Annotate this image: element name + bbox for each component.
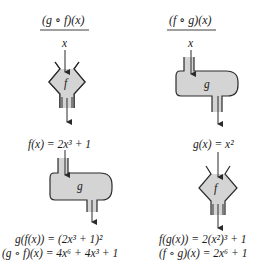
left-title: (g ∘ f)(x) xyxy=(42,14,85,27)
right-result-line1: f(g(x)) = 2(x²)³ + 1 xyxy=(159,233,247,246)
right-input-label: x xyxy=(188,37,193,50)
right-title: (f ∘ g)(x) xyxy=(169,14,212,27)
right-intermediate: g(x) = x² xyxy=(193,138,234,151)
right-machine2-label: f xyxy=(214,182,217,195)
left-result-line2: (g ∘ f)(x) = 4x⁶ + 4x³ + 1 xyxy=(2,247,118,260)
left-input-label: x xyxy=(62,37,67,50)
left-machine1-label: f xyxy=(64,77,67,90)
right-machine1-label: g xyxy=(204,78,210,91)
left-machine2-label: g xyxy=(77,180,83,193)
left-result-line1: g(f(x)) = (2x³ + 1)² xyxy=(15,233,103,246)
left-intermediate: f(x) = 2x³ + 1 xyxy=(28,138,91,151)
right-result-line2: (f ∘ g)(x) = 2x⁶ + 1 xyxy=(159,247,247,260)
